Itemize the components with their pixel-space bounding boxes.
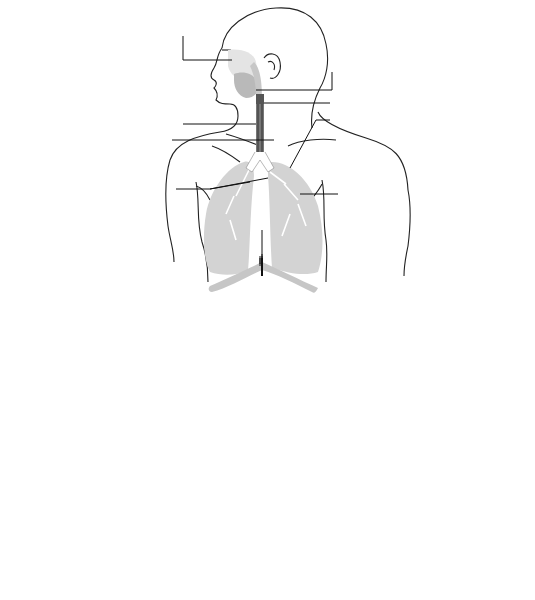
right-lung	[268, 162, 323, 274]
respiratory-system-diagram	[0, 0, 535, 600]
lungs	[204, 152, 323, 275]
ear	[264, 54, 280, 78]
trachea	[256, 94, 264, 155]
left-lung	[204, 162, 254, 275]
